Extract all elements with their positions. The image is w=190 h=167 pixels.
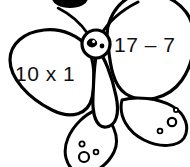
eye-icon bbox=[100, 44, 105, 49]
upper-left-wing-expression: 10 x 1 bbox=[15, 62, 75, 85]
wing-spot bbox=[168, 118, 176, 126]
wing-spot bbox=[174, 108, 178, 112]
wing-spot bbox=[158, 129, 163, 134]
upper-right-wing-expression: 17 – 7 bbox=[114, 33, 175, 56]
butterfly-illustration: 10 x 1 17 – 7 bbox=[0, 0, 190, 167]
eye-highlight bbox=[92, 40, 95, 43]
canvas: 10 x 1 17 – 7 bbox=[0, 0, 190, 167]
wing-spot bbox=[94, 150, 99, 155]
eye-icon bbox=[87, 39, 97, 48]
head bbox=[82, 30, 110, 58]
wing-spot bbox=[79, 152, 89, 162]
wing-spot bbox=[79, 141, 84, 146]
